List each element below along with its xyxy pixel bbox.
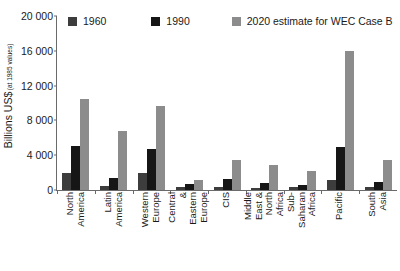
y-tick-label: 8 000 [27, 115, 53, 126]
x-tick-label: Sub-Saharan Africa [286, 192, 318, 228]
bar [223, 179, 232, 190]
bar-group [359, 16, 397, 190]
bar [260, 183, 269, 190]
x-axis-labels: North AmericaLatin AmericaWestern Europe… [56, 192, 396, 271]
bar [251, 188, 260, 190]
bar [383, 160, 392, 190]
plot-area: 04 0008 00012 00016 00020 000 [56, 16, 397, 191]
bar-group [321, 16, 359, 190]
bar [232, 160, 241, 190]
bar [109, 178, 118, 190]
bar [147, 149, 156, 190]
bar-group [170, 16, 208, 190]
x-label-cell: North America [56, 192, 94, 271]
bar [71, 146, 80, 190]
x-label-cell: Central & Eastern Europe [169, 192, 207, 271]
bar [138, 173, 147, 190]
x-tick-label: CIS [221, 192, 232, 208]
y-axis-title: Billions US$ (at 1985 values) [0, 0, 16, 192]
bar [80, 99, 89, 190]
x-tick-label: North America [64, 192, 85, 227]
bar-group [246, 16, 284, 190]
bar [365, 187, 374, 190]
bar-group [208, 16, 246, 190]
x-tick-label: South Asia [367, 192, 388, 217]
bar-group [133, 16, 171, 190]
x-tick-label: Central & Eastern Europe [167, 192, 209, 225]
bar [194, 180, 203, 190]
bar-group [284, 16, 322, 190]
x-tick-label: Western Europe [140, 192, 161, 227]
bar [298, 185, 307, 190]
y-axis-title-main: Billions US$ [2, 92, 14, 149]
bar [100, 186, 109, 190]
bar [62, 173, 71, 190]
bar-groups [57, 16, 397, 190]
y-tick-label: 4 000 [27, 150, 53, 161]
y-tick-label: 0 [47, 185, 53, 196]
x-label-cell: Middle East & North Africa [245, 192, 283, 271]
bar [214, 187, 223, 190]
y-tick-label: 16 000 [21, 45, 53, 56]
x-label-cell: CIS [207, 192, 245, 271]
x-label-cell: South Asia [358, 192, 396, 271]
y-axis-title-sub: (at 1985 values) [6, 44, 13, 91]
bar [345, 51, 354, 190]
bar-chart: 1960 1990 2020 estimate for WEC Case B B… [0, 0, 400, 271]
x-label-cell: Pacific [320, 192, 358, 271]
bar-group [57, 16, 95, 190]
bar [327, 180, 336, 190]
x-label-cell: Latin America [94, 192, 132, 271]
y-tick-label: 12 000 [21, 80, 53, 91]
bar [269, 165, 278, 190]
bar [374, 182, 383, 190]
x-tick-label: Middle East & North Africa [243, 192, 285, 220]
bar [289, 187, 298, 190]
x-label-cell: Western Europe [132, 192, 170, 271]
bar [118, 131, 127, 190]
x-tick-label: Pacific [334, 192, 345, 220]
x-label-cell: Sub-Saharan Africa [283, 192, 321, 271]
bar-group [95, 16, 133, 190]
x-tick-label: Latin America [102, 192, 123, 227]
bar [176, 187, 185, 190]
bar [156, 106, 165, 190]
bar [185, 184, 194, 190]
y-tick-label: 20 000 [21, 11, 53, 22]
bar [336, 147, 345, 190]
bar [307, 171, 316, 190]
